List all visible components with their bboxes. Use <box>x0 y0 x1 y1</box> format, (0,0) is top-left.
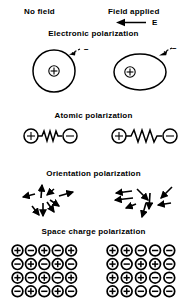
field-direction-indicator: E <box>112 17 160 28</box>
charge-positive <box>52 286 63 297</box>
space-charge-field-applied-grid <box>106 244 178 300</box>
charge-negative <box>164 272 175 283</box>
charge-negative <box>52 272 63 283</box>
charge-negative <box>12 286 23 297</box>
column-header-field-applied: Field applied <box>108 8 160 16</box>
charge-negative <box>66 286 77 297</box>
electronic-no-field-diagram <box>28 44 88 94</box>
charge-negative <box>136 286 147 297</box>
section-title-atomic: Atomic polarization <box>0 112 187 120</box>
charge-negative <box>150 272 161 283</box>
ion-positive-left <box>24 129 38 143</box>
charge-negative <box>52 245 63 256</box>
charge-negative <box>66 259 77 270</box>
charge-positive <box>107 259 118 270</box>
charge-negative <box>39 259 50 270</box>
charge-positive <box>26 259 37 270</box>
atomic-no-field-diagram <box>22 126 84 146</box>
ion-positive-right <box>112 129 126 143</box>
electron-label-right: − <box>172 44 177 53</box>
spring-bond-left <box>38 131 62 141</box>
charge-negative <box>121 259 132 270</box>
electronic-field-applied-diagram <box>112 44 180 94</box>
charge-negative <box>12 259 23 270</box>
charge-positive <box>121 272 132 283</box>
charge-positive <box>39 245 50 256</box>
atomic-field-applied-diagram <box>110 126 182 146</box>
ion-negative-right <box>163 129 177 143</box>
charge-negative <box>26 272 37 283</box>
charge-positive <box>150 259 161 270</box>
ion-negative-left <box>63 129 77 143</box>
charge-positive <box>136 272 147 283</box>
field-symbol-label: E <box>152 18 157 27</box>
charge-positive <box>121 245 132 256</box>
charge-positive <box>12 272 23 283</box>
polarization-figure: No field Field applied E Electronic pola… <box>0 0 187 302</box>
charge-negative <box>150 286 161 297</box>
charge-positive <box>66 245 77 256</box>
charge-negative <box>164 286 175 297</box>
charge-positive <box>26 286 37 297</box>
charge-negative <box>164 259 175 270</box>
electron-label-left: − <box>84 45 89 54</box>
charge-positive <box>52 259 63 270</box>
section-title-space-charge: Space charge polarization <box>0 228 187 236</box>
charge-negative <box>39 286 50 297</box>
orientation-no-field-diagram <box>16 182 90 224</box>
charge-negative <box>164 245 175 256</box>
charge-negative <box>150 245 161 256</box>
column-header-no-field: No field <box>24 8 55 16</box>
charge-positive <box>66 272 77 283</box>
spring-bond-right <box>126 130 162 142</box>
charge-positive <box>107 272 118 283</box>
charge-positive <box>136 259 147 270</box>
charge-positive <box>107 286 118 297</box>
charge-negative <box>136 245 147 256</box>
charge-positive <box>107 245 118 256</box>
space-charge-no-field-grid <box>11 244 79 300</box>
section-title-orientation: Orientation polarization <box>0 170 187 178</box>
charge-negative <box>26 245 37 256</box>
charge-positive <box>39 272 50 283</box>
orientation-field-applied-diagram <box>106 182 184 224</box>
charge-positive <box>121 286 132 297</box>
section-title-electronic: Electronic polarization <box>0 30 187 38</box>
charge-positive <box>12 245 23 256</box>
